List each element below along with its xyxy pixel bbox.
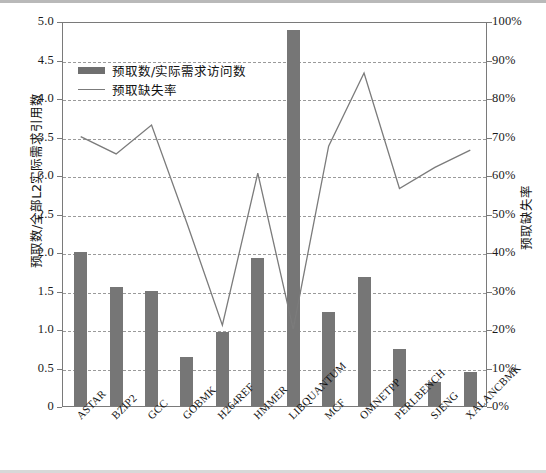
y-tick-label-right: 70% [492, 130, 540, 145]
legend-line-label: 预取缺失率 [112, 80, 177, 99]
y-tick-label-left: 4.0 [14, 91, 54, 106]
y-tick-label-left: 3.5 [14, 130, 54, 145]
chart-figure: 预取数/全部L2实际需求引用数 预取缺失率 5.04.54.03.53.02.5… [0, 3, 546, 470]
y-tick-label-right: 90% [492, 53, 540, 68]
y-tick-label-right: 60% [492, 168, 540, 183]
y-tick-label-right: 0% [492, 399, 540, 414]
y-tick-label-right: 30% [492, 284, 540, 299]
y-tick-label-right: 40% [492, 245, 540, 260]
y-tick-label-left: 2.5 [14, 207, 54, 222]
prefetch-miss-rate-line [81, 73, 471, 329]
y-tick-label-left: 1.0 [14, 322, 54, 337]
y-tick-label-left: 0 [14, 399, 54, 414]
y-tick-label-left: 2.0 [14, 245, 54, 260]
legend-bar-swatch-icon [78, 67, 105, 74]
legend-item-bar: 预取数/实际需求访问数 [78, 61, 246, 80]
y-tick-label-right: 50% [492, 207, 540, 222]
chart-page: 预取数/全部L2实际需求引用数 预取缺失率 5.04.54.03.53.02.5… [0, 0, 546, 473]
y-tick-label-left: 4.5 [14, 53, 54, 68]
legend-item-line: 预取缺失率 [78, 80, 246, 99]
chart-legend: 预取数/实际需求访问数 预取缺失率 [78, 61, 246, 99]
legend-line-swatch-icon [78, 89, 105, 90]
y-tick-label-left: 3.0 [14, 168, 54, 183]
y-tick-label-right: 100% [492, 14, 540, 29]
y-tick-label-left: 5.0 [14, 14, 54, 29]
y-tick-mark-left [57, 407, 62, 408]
y-tick-label-right: 20% [492, 322, 540, 337]
y-tick-label-left: 1.5 [14, 284, 54, 299]
legend-bar-label: 预取数/实际需求访问数 [112, 61, 246, 80]
y-tick-label-right: 80% [492, 91, 540, 106]
y-tick-label-left: 0.5 [14, 361, 54, 376]
